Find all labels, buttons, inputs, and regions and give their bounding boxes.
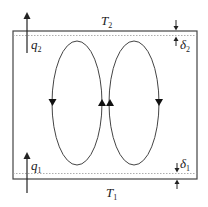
q2-label: q2 bbox=[31, 38, 42, 54]
arrow-down-icon bbox=[155, 99, 163, 106]
t1-label: T1 bbox=[106, 186, 117, 202]
arrow-down-icon bbox=[49, 99, 57, 106]
arrow-up-icon bbox=[98, 99, 106, 106]
right-cell bbox=[109, 41, 159, 165]
left-cell bbox=[52, 41, 102, 165]
delta2-label: δ2 bbox=[180, 38, 190, 54]
arrow-up-icon bbox=[106, 99, 114, 106]
convection-diagram bbox=[0, 0, 208, 207]
q1-label: q1 bbox=[31, 159, 42, 175]
t2-label: T2 bbox=[101, 14, 112, 30]
delta1-label: δ1 bbox=[180, 157, 190, 173]
